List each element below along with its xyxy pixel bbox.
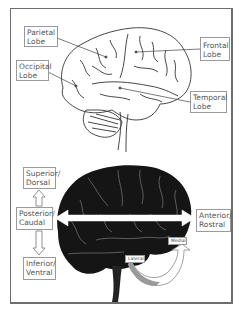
label-line: Temporal — [193, 93, 224, 102]
label-line: Occipital — [19, 62, 46, 71]
medial-label: Medial — [168, 237, 187, 245]
label-line: Rostral — [199, 220, 228, 229]
label-line: Inferior/ — [26, 259, 53, 268]
label-line: Superior/ — [26, 169, 53, 178]
top-leader-lines — [48, 38, 200, 102]
parietal-lobe-label: Parietal Lobe — [24, 26, 58, 47]
top-brain-outline — [62, 28, 192, 152]
label-line: Frontal — [203, 41, 227, 50]
anterior-rostral-label: Anterior/ Rostral — [196, 209, 231, 232]
label-line: Parietal — [27, 28, 55, 37]
label-line: Caudal — [19, 218, 50, 227]
inferior-ventral-label: Inferior/ Ventral — [23, 257, 56, 280]
label-line: Posterior/ — [19, 209, 50, 218]
label-line: Anterior/ — [199, 211, 228, 220]
label-line: Dorsal — [26, 178, 53, 187]
label-line: Ventral — [26, 268, 53, 277]
temporal-lobe-label: Temporal Lobe — [190, 91, 227, 113]
frontal-lobe-label: Frontal Lobe — [200, 37, 230, 61]
label-line: Lobe — [203, 50, 227, 59]
label-line: Lobe — [27, 37, 55, 46]
label-line: Lobe — [19, 71, 46, 80]
posterior-caudal-label: Posterior/ Caudal — [16, 207, 53, 230]
occipital-lobe-label: Occipital Lobe — [16, 60, 49, 81]
label-line: Lobe — [193, 102, 224, 111]
superior-dorsal-label: Superior/ Dorsal — [23, 167, 56, 189]
lateral-label: Lateral — [125, 255, 145, 263]
